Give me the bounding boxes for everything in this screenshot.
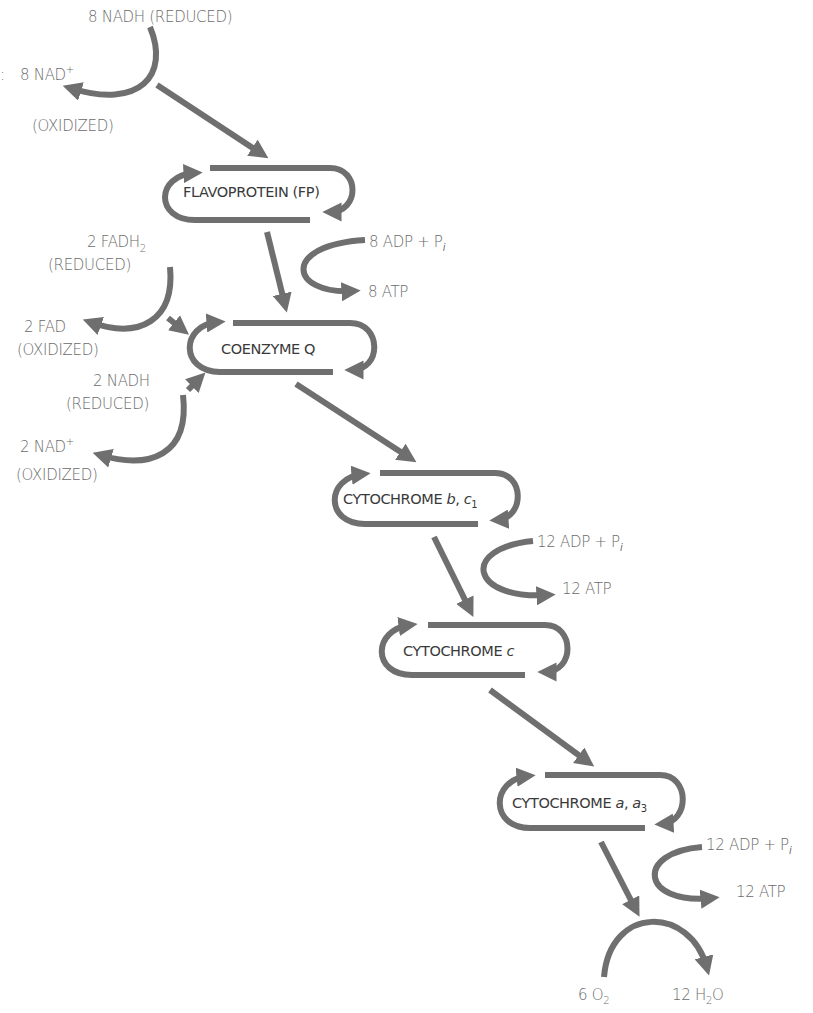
nadh2-reduced-label: 2 NADH — [93, 372, 150, 390]
fad-oxidized-state: (OXIDIZED) — [17, 341, 99, 359]
nad-oxidized-state: (OXIDIZED) — [32, 117, 114, 135]
nad2-oxidized-label: 2 NAD+ — [20, 436, 74, 456]
nadh-oxidation-arrow — [70, 27, 156, 95]
oxygen-label: 6 O2 — [578, 986, 609, 1006]
atp-output-label: 12 ATP — [562, 580, 612, 598]
nadh2-input-group: 2 NADH (REDUCED) 2 NAD+ (OXIDIZED) — [16, 372, 200, 484]
carrier-cytochrome-c: CYTOCHROME c — [382, 625, 568, 675]
fad-oxidized-label: 2 FAD — [24, 318, 66, 336]
nad-oxidized-label: 8 NAD+ — [20, 64, 74, 84]
fadh2-input-group: 2 FADH2 (REDUCED) 2 FAD (OXIDIZED) — [17, 233, 183, 359]
arrow-to-cytochrome-aa3 — [490, 690, 588, 762]
carrier-flavoprotein: FLAVOPROTEIN (FP) — [165, 168, 353, 220]
edge-mark: : — [0, 66, 5, 84]
arrow-to-cytochrome-bc1 — [296, 384, 410, 458]
carrier-label: CYTOCHROME b, c1 — [343, 491, 477, 510]
nadh2-reduced-state: (REDUCED) — [66, 395, 149, 413]
carrier-label: CYTOCHROME a, a3 — [512, 795, 647, 814]
atp-output-label: 12 ATP — [736, 883, 786, 901]
carrier-label: COENZYME Q — [221, 341, 315, 357]
oxygen-reduction: 6 O2 12 H2O — [578, 922, 724, 1006]
carrier-cytochrome-bc1: CYTOCHROME b, c1 — [335, 473, 518, 524]
phosphorylation-site-1: 8 ADP + Pi 8 ATP — [303, 233, 445, 301]
adp-input-label: 8 ADP + Pi — [369, 233, 446, 253]
carrier-coenzyme-q: COENZYME Q — [190, 322, 375, 372]
fadh2-reduced-state: (REDUCED) — [48, 256, 131, 274]
arrow-to-oxygen — [601, 842, 636, 910]
arrow-to-cytochrome-c — [434, 537, 470, 610]
adp-input-label: 12 ADP + Pi — [706, 836, 792, 856]
nadh-reduced-label: 8 NADH (REDUCED) — [88, 8, 232, 26]
arrow-to-flavoprotein — [157, 85, 262, 154]
carrier-label: CYTOCHROME c — [403, 643, 514, 659]
water-label: 12 H2O — [672, 986, 724, 1006]
adp-input-label: 12 ADP + Pi — [537, 533, 623, 553]
fadh2-reduced-label: 2 FADH2 — [87, 233, 146, 254]
carrier-cytochrome-aa3: CYTOCHROME a, a3 — [500, 775, 683, 828]
carrier-label: FLAVOPROTEIN (FP) — [183, 184, 319, 200]
atp-output-label: 8 ATP — [368, 283, 408, 301]
nad2-oxidized-state: (OXIDIZED) — [16, 466, 98, 484]
arrow-to-coenzyme-q — [267, 232, 285, 305]
phosphorylation-site-3: 12 ADP + Pi 12 ATP — [655, 836, 792, 901]
electron-transport-diagram: : 8 NADH (REDUCED) 8 NAD+ (OXIDIZED) FLA… — [0, 0, 813, 1013]
phosphorylation-site-2: 12 ADP + Pi 12 ATP — [483, 533, 622, 598]
